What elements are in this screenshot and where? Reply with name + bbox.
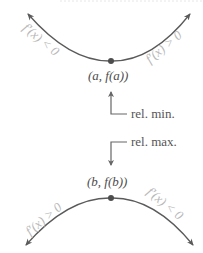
maximum-annotation: rel. max. — [131, 134, 177, 149]
maximum-point — [108, 195, 114, 201]
maximum-point-label: (b, f(b)) — [87, 174, 127, 189]
minimum-point-label: (a, f(a)) — [88, 68, 128, 83]
maximum-pointer — [111, 142, 127, 165]
extrema-diagram: f′(x) < 0 f′(x) > 0 (a, f(a)) rel. min. … — [0, 0, 203, 253]
maximum-curve-right — [111, 198, 193, 245]
minimum-annotation: rel. min. — [131, 106, 175, 121]
maximum-left-derivative: f′(x) > 0 — [22, 199, 65, 238]
minimum-pointer — [111, 92, 127, 114]
relative-maximum-group: rel. max. (b, f(b)) f′(x) > 0 f′(x) < 0 — [22, 134, 193, 245]
minimum-right-derivative: f′(x) > 0 — [142, 27, 185, 66]
relative-minimum-group: f′(x) < 0 f′(x) > 0 (a, f(a)) rel. min. — [20, 14, 190, 121]
minimum-point — [108, 58, 114, 64]
minimum-left-derivative: f′(x) < 0 — [20, 20, 63, 59]
